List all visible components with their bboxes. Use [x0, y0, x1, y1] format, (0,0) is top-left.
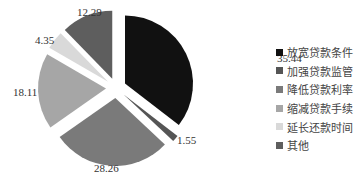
- pie-slice-0: [125, 16, 193, 125]
- chart-legend: 放宽贷款条件 加强贷款监管 降低贷款利率 缩减贷款手续 延长还款时间 其他: [276, 43, 353, 155]
- value-label-1: 1.55: [177, 134, 197, 146]
- legend-label: 降低贷款利率: [287, 81, 353, 97]
- legend-swatch: [276, 105, 283, 112]
- value-label-2: 28.26: [94, 162, 119, 174]
- legend-item: 降低贷款利率: [276, 80, 353, 99]
- pie-slices: [38, 11, 193, 166]
- legend-swatch: [276, 123, 283, 130]
- legend-swatch: [276, 67, 283, 74]
- legend-swatch: [276, 142, 283, 149]
- legend-item: 其他: [276, 136, 353, 155]
- legend-label: 其他: [287, 137, 309, 153]
- legend-swatch: [276, 49, 283, 56]
- legend-item: 延长还款时间: [276, 117, 353, 136]
- legend-item: 放宽贷款条件: [276, 43, 353, 62]
- legend-item: 缩减贷款手续: [276, 99, 353, 118]
- legend-item: 加强贷款监管: [276, 62, 353, 81]
- value-label-5: 12.29: [77, 6, 102, 18]
- legend-label: 加强贷款监管: [287, 63, 353, 79]
- legend-label: 放宽贷款条件: [287, 44, 353, 60]
- legend-label: 缩减贷款手续: [287, 100, 353, 116]
- value-label-3: 18.11: [13, 86, 37, 98]
- value-label-4: 4.35: [35, 34, 55, 46]
- legend-label: 延长还款时间: [287, 119, 353, 135]
- legend-swatch: [276, 86, 283, 93]
